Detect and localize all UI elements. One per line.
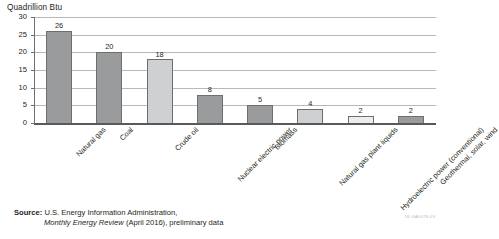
y-tick-label: 10 — [19, 84, 27, 92]
x-axis-label: Coal — [119, 126, 135, 142]
x-axis-label: Natural gas — [75, 126, 107, 158]
bar — [398, 116, 424, 123]
bar — [96, 52, 122, 123]
chart-axis-title: Quadrillion Btu — [7, 3, 62, 12]
source-publication: Monthly Energy Review — [44, 218, 124, 227]
bar-value-label: 5 — [247, 96, 273, 103]
y-tick-label: 5 — [23, 102, 27, 110]
bar — [147, 59, 173, 123]
bar-value-label: 26 — [46, 22, 72, 29]
x-axis-label: Natural gas plant liquids — [338, 126, 399, 187]
bar — [297, 109, 323, 123]
source-line-1: U.S. Energy Information Administration, — [44, 208, 177, 217]
bar-column: 2 — [398, 17, 424, 123]
bar-value-label: 2 — [348, 107, 374, 114]
bar-column: 8 — [197, 17, 223, 123]
y-tick-label: 15 — [19, 66, 27, 74]
y-tick-label: 20 — [19, 49, 27, 57]
source-label: Source: — [14, 208, 42, 217]
bar-value-label: 4 — [297, 100, 323, 107]
bar-column: 5 — [247, 17, 273, 123]
bar-column: 20 — [96, 17, 122, 123]
y-tick-label: 30 — [19, 13, 27, 21]
bar-column: 4 — [297, 17, 323, 123]
bar — [247, 105, 273, 123]
bar — [46, 31, 72, 123]
bar-column: 2 — [348, 17, 374, 123]
bar-value-label: 18 — [147, 51, 173, 58]
bar-value-label: 20 — [96, 43, 122, 50]
bar-value-label: 8 — [197, 86, 223, 93]
x-axis-label: Hydroelectric power (conventional) — [399, 126, 485, 212]
bar — [197, 95, 223, 123]
bar-column: 18 — [147, 17, 173, 123]
bar-series: 26201885422 — [34, 17, 436, 123]
source-line-2: (April 2016), preliminary data — [124, 218, 224, 227]
source-note: Source: U.S. Energy Information Administ… — [14, 208, 223, 227]
bar-column: 26 — [46, 17, 72, 123]
x-axis-label: Crude oil — [173, 126, 199, 152]
x-axis-category-labels: Natural gasCoalCrude oilNuclear electric… — [34, 123, 436, 203]
plot-area: 26201885422 — [34, 17, 436, 123]
y-tick-label: 0 — [23, 119, 27, 127]
bar — [348, 116, 374, 123]
figure-code: 18-GA0079-03 — [404, 214, 435, 219]
bar-value-label: 2 — [398, 107, 424, 114]
y-tick-label: 25 — [19, 31, 27, 39]
y-axis-tick-labels: 0 5 10 15 20 25 30 — [0, 17, 34, 123]
